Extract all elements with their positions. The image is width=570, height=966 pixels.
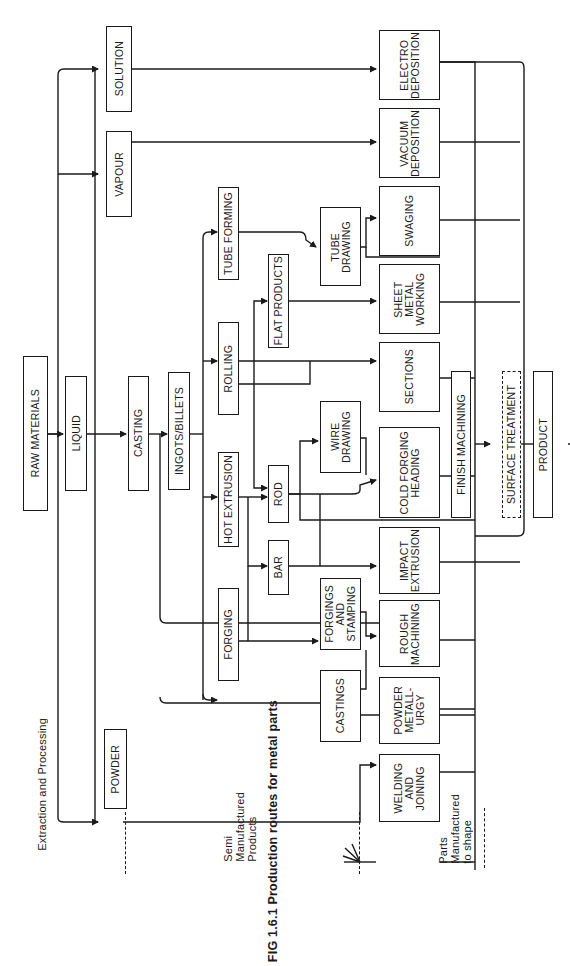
node-raw-materials: RAW MATERIALS	[23, 356, 48, 511]
node-forging: FORGING	[218, 588, 239, 681]
node-product: PRODUCT	[533, 371, 553, 518]
figure-caption: FIG 1.6.1 Production routes for metal pa…	[268, 700, 279, 966]
node-casting: CASTING	[128, 376, 149, 491]
stage-divider-extraction	[125, 812, 126, 874]
node-castings: CASTINGS	[320, 670, 361, 742]
node-hot-extrusion: HOT EXTRUSION	[218, 452, 239, 547]
node-electro-deposition: ELECTRO DEPOSITION	[379, 30, 440, 100]
node-solution: SOLUTION	[106, 26, 132, 112]
node-impact-extrusion: IMPACT EXTRUSION	[379, 527, 440, 594]
node-bar: BAR	[268, 540, 289, 595]
node-surface-treatment: SURFACE TREATMENT	[502, 371, 521, 518]
node-vacuum-deposition: VACUUM DEPOSITION	[379, 108, 440, 178]
node-powder: POWDER	[104, 729, 127, 809]
stage-divider-parts	[484, 808, 485, 868]
node-forgings-stamping: FORGINGS AND STAMPING	[320, 578, 361, 650]
stage-label-extraction: Extraction and Processing	[36, 718, 48, 855]
node-ingots-billets: INGOTS/BILLETS	[168, 372, 190, 490]
node-liquid: LIQUID	[65, 376, 87, 491]
node-vapour: VAPOUR	[106, 131, 132, 217]
node-flat-products: FLAT PRODUCTS	[268, 254, 289, 348]
node-tube-drawing: TUBE DRAWING	[320, 207, 361, 286]
node-sheet-metal-working: SHEET METAL WORKING	[379, 264, 440, 334]
node-welding-joining: WELDING AND JOINING	[379, 754, 440, 822]
node-rod: ROD	[268, 465, 289, 523]
node-finish-machining: FINISH MACHINING	[451, 371, 471, 518]
stage-label-parts-manufactured: Parts Manufactured to shape	[437, 794, 473, 868]
node-rolling: ROLLING	[218, 322, 239, 415]
node-powder-metallurgy: POWDER METALL- URGY	[379, 677, 440, 744]
node-wire-drawing: WIRE DRAWING	[320, 401, 361, 473]
stage-label-semi-manufactured: Semi Manufactured Products	[222, 792, 258, 866]
node-sections: SECTIONS	[379, 342, 440, 412]
stage-divider-semi	[359, 812, 360, 874]
node-swaging: SWAGING	[379, 186, 440, 256]
node-rough-machining: ROUGH MACHINING	[379, 600, 440, 667]
node-tube-forming: TUBE FORMING	[218, 187, 239, 280]
node-cold-forging-heading: COLD FORGING HEADING	[379, 427, 440, 518]
